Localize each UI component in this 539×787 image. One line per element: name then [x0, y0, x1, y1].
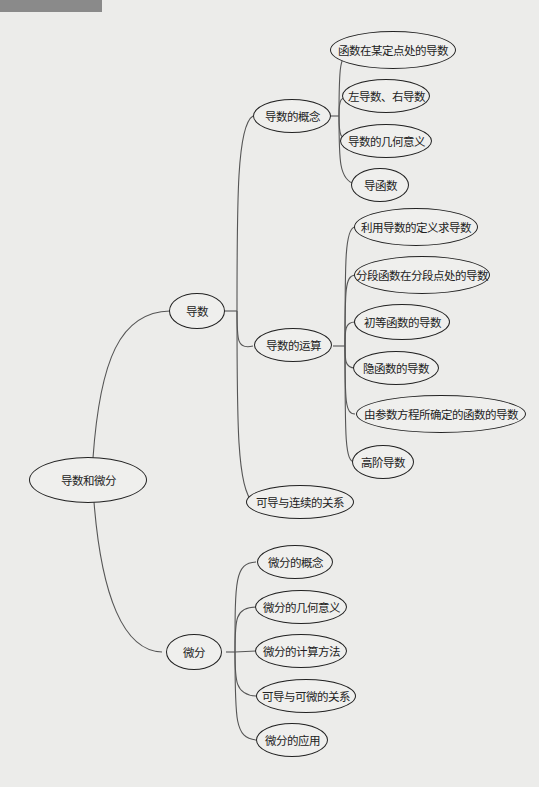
operations-item[interactable]: 高阶导数 [352, 445, 414, 479]
node-derivative-operations[interactable]: 导数的运算 [254, 328, 332, 362]
concept-item[interactable]: 导函数 [351, 168, 409, 202]
node-derivative-concept[interactable]: 导数的概念 [253, 99, 331, 133]
operations-item[interactable]: 利用导数的定义求导数 [354, 208, 478, 246]
concept-item[interactable]: 函数在某定点处的导数 [330, 31, 456, 69]
node-differential[interactable]: 微分 [166, 634, 222, 670]
node-continuity-relation[interactable]: 可导与连续的关系 [246, 485, 354, 519]
concept-item[interactable]: 导数的几何意义 [340, 124, 432, 158]
differential-item[interactable]: 微分的应用 [256, 723, 328, 757]
differential-item[interactable]: 微分的计算方法 [255, 634, 347, 668]
differential-item[interactable]: 微分的几何意义 [255, 590, 347, 624]
operations-item[interactable]: 由参数方程所确定的函数的导数 [356, 395, 526, 433]
differential-item[interactable]: 微分的概念 [257, 545, 333, 579]
concept-item[interactable]: 左导数、右导数 [342, 79, 430, 113]
operations-item[interactable]: 初等函数的导数 [354, 304, 450, 340]
operations-item[interactable]: 分段函数在分段点处的导数 [354, 256, 490, 294]
root-node[interactable]: 导数和微分 [29, 457, 147, 503]
operations-item[interactable]: 隐函数的导数 [353, 351, 439, 385]
differential-item[interactable]: 可导与可微的关系 [256, 679, 356, 713]
node-derivative[interactable]: 导数 [169, 293, 225, 329]
